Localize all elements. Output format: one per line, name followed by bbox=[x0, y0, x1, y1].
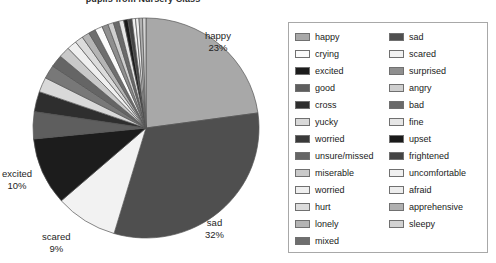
slice-label-scared-name: scared bbox=[42, 231, 71, 242]
legend-item-label: lonely bbox=[315, 219, 339, 229]
legend-swatch-icon bbox=[295, 169, 310, 177]
legend-swatch-icon bbox=[389, 220, 404, 228]
pie-svg bbox=[0, 12, 286, 263]
legend-item[interactable]: surprised bbox=[389, 62, 483, 79]
slice-label-sad-percent: 32% bbox=[205, 229, 224, 241]
legend-item[interactable]: angry bbox=[389, 79, 483, 96]
legend-item-label: miserable bbox=[315, 168, 354, 178]
legend-item-label: worried bbox=[315, 134, 345, 144]
legend-item-label: surprised bbox=[409, 66, 446, 76]
legend-swatch-icon bbox=[389, 203, 404, 211]
slice-label-happy-name: happy bbox=[205, 30, 231, 41]
legend-item-label: afraid bbox=[409, 185, 432, 195]
legend-item[interactable]: yucky bbox=[295, 113, 389, 130]
legend-swatch-icon bbox=[295, 237, 310, 245]
legend-swatch-icon bbox=[295, 84, 310, 92]
legend-item-label: angry bbox=[409, 83, 432, 93]
legend-swatch-icon bbox=[295, 33, 310, 41]
legend-item-label: good bbox=[315, 83, 335, 93]
chart-title: pupils from Nursery Class bbox=[0, 0, 286, 4]
legend-item[interactable]: crying bbox=[295, 45, 389, 62]
slice-label-happy: happy 23% bbox=[205, 30, 231, 53]
legend-item-label: happy bbox=[315, 32, 340, 42]
legend-item[interactable]: scared bbox=[389, 45, 483, 62]
legend-item-label: worried bbox=[315, 185, 345, 195]
legend-item-label: uncomfortable bbox=[409, 168, 466, 178]
slice-label-excited: excited 10% bbox=[2, 168, 32, 191]
legend-swatch-icon bbox=[389, 118, 404, 126]
legend-item-label: sleepy bbox=[409, 219, 435, 229]
slice-label-excited-percent: 10% bbox=[2, 180, 32, 192]
legend-item-label: excited bbox=[315, 66, 344, 76]
legend-swatch-icon bbox=[389, 186, 404, 194]
slice-label-excited-name: excited bbox=[2, 168, 32, 179]
legend-swatch-icon bbox=[389, 169, 404, 177]
legend-swatch-icon bbox=[295, 203, 310, 211]
legend-swatch-icon bbox=[389, 135, 404, 143]
legend-item[interactable]: excited bbox=[295, 62, 389, 79]
legend-swatch-icon bbox=[295, 186, 310, 194]
legend-swatch-icon bbox=[295, 50, 310, 58]
legend-item-label: frightened bbox=[409, 151, 449, 161]
legend-swatch-icon bbox=[295, 135, 310, 143]
legend-item[interactable]: mixed bbox=[295, 232, 389, 249]
legend-item[interactable]: upset bbox=[389, 130, 483, 147]
slice-label-sad: sad 32% bbox=[205, 217, 224, 240]
legend-columns: happycryingexcitedgoodcrossyuckyworriedu… bbox=[295, 28, 483, 249]
legend-item[interactable]: uncomfortable bbox=[389, 164, 483, 181]
legend-item-label: crying bbox=[315, 49, 339, 59]
pie-chart: happy 23% sad 32% scared 9% excited 10% bbox=[0, 12, 286, 263]
legend-item-label: unsure/missed bbox=[315, 151, 374, 161]
slice-label-scared: scared 9% bbox=[42, 231, 71, 254]
legend-item[interactable]: afraid bbox=[389, 181, 483, 198]
slice-label-scared-percent: 9% bbox=[42, 243, 71, 255]
legend-item[interactable]: miserable bbox=[295, 164, 389, 181]
legend-swatch-icon bbox=[295, 118, 310, 126]
slice-label-happy-percent: 23% bbox=[205, 42, 231, 54]
legend-item[interactable]: happy bbox=[295, 28, 389, 45]
legend-item-label: upset bbox=[409, 134, 431, 144]
legend-item-label: bad bbox=[409, 100, 424, 110]
legend-item-label: cross bbox=[315, 100, 337, 110]
legend-item[interactable]: fine bbox=[389, 113, 483, 130]
legend-item-label: apprehensive bbox=[409, 202, 463, 212]
legend-swatch-icon bbox=[389, 84, 404, 92]
legend-column-2: sadscaredsurprisedangrybadfineupsetfrigh… bbox=[389, 28, 483, 249]
legend-item-label: fine bbox=[409, 117, 424, 127]
legend-item[interactable]: sleepy bbox=[389, 215, 483, 232]
legend-swatch-icon bbox=[389, 152, 404, 160]
legend-swatch-icon bbox=[295, 220, 310, 228]
legend-item[interactable]: unsure/missed bbox=[295, 147, 389, 164]
pie-slice-happy[interactable] bbox=[146, 18, 258, 128]
legend-item[interactable]: good bbox=[295, 79, 389, 96]
legend-item[interactable]: cross bbox=[295, 96, 389, 113]
legend-item[interactable]: lonely bbox=[295, 215, 389, 232]
legend-item[interactable]: worried bbox=[295, 130, 389, 147]
legend-swatch-icon bbox=[389, 33, 404, 41]
legend-item-label: sad bbox=[409, 32, 424, 42]
legend-swatch-icon bbox=[295, 152, 310, 160]
chart-legend: happycryingexcitedgoodcrossyuckyworriedu… bbox=[288, 22, 488, 253]
legend-swatch-icon bbox=[295, 67, 310, 75]
legend-item[interactable]: sad bbox=[389, 28, 483, 45]
chart-page: pupils from Nursery Class happy 23% sad … bbox=[0, 0, 496, 263]
legend-item[interactable]: worried bbox=[295, 181, 389, 198]
legend-item-label: hurt bbox=[315, 202, 331, 212]
legend-item-label: mixed bbox=[315, 236, 339, 246]
legend-swatch-icon bbox=[389, 50, 404, 58]
legend-swatch-icon bbox=[389, 101, 404, 109]
legend-item[interactable]: bad bbox=[389, 96, 483, 113]
legend-item-label: yucky bbox=[315, 117, 338, 127]
legend-swatch-icon bbox=[295, 101, 310, 109]
legend-item[interactable]: frightened bbox=[389, 147, 483, 164]
slice-label-sad-name: sad bbox=[207, 217, 222, 228]
legend-column-1: happycryingexcitedgoodcrossyuckyworriedu… bbox=[295, 28, 389, 249]
legend-item-label: scared bbox=[409, 49, 436, 59]
legend-swatch-icon bbox=[389, 67, 404, 75]
legend-item[interactable]: hurt bbox=[295, 198, 389, 215]
legend-item[interactable]: apprehensive bbox=[389, 198, 483, 215]
